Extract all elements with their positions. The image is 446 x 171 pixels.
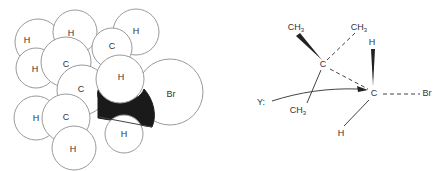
atom-label-c: C [63, 59, 70, 69]
atom-label-h: H [70, 144, 77, 154]
nucleophile-label: Y: [257, 97, 265, 107]
atom-label-h: H [121, 129, 128, 139]
quaternary-carbon-label: C [320, 59, 327, 69]
methyl-bottom-label: CH3 [290, 105, 307, 115]
bromine-leaving-group-label: Br [423, 88, 432, 98]
hydrogen-top-label: H [369, 37, 376, 47]
nucleophile-attack-arrow [272, 89, 358, 101]
methyl-top-right-label: CH3 [351, 22, 368, 32]
reaction-scheme: Y: C C CH3 CH3 CH3 H H Br [257, 22, 432, 138]
arrow-head-icon [357, 86, 368, 92]
methyl-top-left-label: CH3 [288, 22, 305, 32]
space-filling-model: HHHCHCCHCHBrHH [14, 9, 203, 170]
reacting-carbon-label: C [371, 88, 378, 98]
hydrogen-bottom-label: H [338, 128, 345, 138]
wedge-bond-hydrogen-top [371, 49, 375, 86]
wedge-bond-methyl-left [296, 33, 322, 60]
bond-hydrogen-bottom [344, 100, 369, 126]
atom-label-h: H [24, 35, 31, 45]
atom-label-h: H [33, 113, 40, 123]
figure: HHHCHCCHCHBrHH Y: C C CH3 [0, 0, 446, 171]
atom-label-h: H [32, 64, 39, 74]
atom-label-h: H [68, 28, 75, 38]
atom-label-br: Br [167, 89, 176, 99]
atom-label-h: H [133, 26, 140, 36]
atom-label-h: H [118, 72, 125, 82]
bond-methyl-bottom [307, 70, 321, 103]
reaction-labels: Y: C C CH3 CH3 CH3 H H Br [257, 22, 432, 138]
atom-label-c: C [78, 84, 85, 94]
atom-label-c: C [109, 41, 116, 51]
atom-label-c: C [63, 112, 70, 122]
dashed-bond-c-c [330, 69, 368, 89]
dashed-bond-methyl-right [327, 33, 355, 60]
